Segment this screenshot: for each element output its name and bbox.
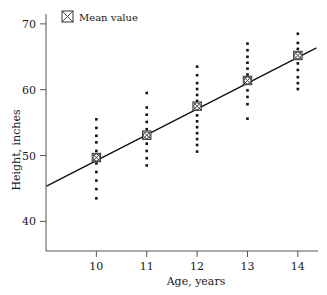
x-tick-label: 10 xyxy=(89,260,103,273)
data-point xyxy=(196,132,199,135)
chart-figure: 40506070 1011121314 Height, inches Age, … xyxy=(0,0,327,295)
x-tick-label: 12 xyxy=(190,260,204,273)
data-point xyxy=(297,42,300,45)
data-point xyxy=(145,164,148,167)
data-point xyxy=(246,73,249,76)
data-point xyxy=(95,134,98,137)
data-point xyxy=(297,48,300,51)
y-axis-title: Height, inches xyxy=(10,109,23,191)
x-axis-title: Age, years xyxy=(166,275,226,288)
data-point xyxy=(196,144,199,147)
x-tick-label: 14 xyxy=(291,260,305,273)
regression-line-segment xyxy=(47,48,316,186)
axes-group xyxy=(46,14,318,251)
data-point xyxy=(95,118,98,121)
data-point xyxy=(95,127,98,130)
data-point xyxy=(196,94,199,97)
data-point xyxy=(196,138,199,141)
data-point xyxy=(95,171,98,174)
data-point xyxy=(297,32,300,35)
data-point xyxy=(297,76,300,79)
data-point xyxy=(196,88,199,91)
x-axis-ticks: 1011121314 xyxy=(89,251,304,273)
data-point xyxy=(246,42,249,45)
data-point xyxy=(196,114,199,117)
data-point xyxy=(246,89,249,92)
data-point xyxy=(196,74,199,77)
y-tick-label: 50 xyxy=(22,150,36,163)
data-point xyxy=(297,62,300,65)
data-point xyxy=(246,96,249,99)
data-point xyxy=(246,49,249,52)
legend-label-mean-value: Mean value xyxy=(79,12,138,23)
data-point xyxy=(246,55,249,58)
data-point xyxy=(145,157,148,160)
data-point xyxy=(297,82,300,85)
data-point xyxy=(145,92,148,95)
data-point xyxy=(95,188,98,191)
mean-marker xyxy=(92,153,100,161)
data-point xyxy=(196,82,199,85)
data-point xyxy=(145,128,148,131)
x-tick-label: 13 xyxy=(240,260,254,273)
data-point xyxy=(196,65,199,68)
data-point xyxy=(95,162,98,165)
y-tick-label: 40 xyxy=(22,215,36,228)
data-point xyxy=(196,120,199,123)
data-point xyxy=(95,197,98,200)
mean-marker xyxy=(193,102,201,110)
y-axis-ticks: 40506070 xyxy=(22,18,46,229)
regression-line xyxy=(47,48,316,186)
data-point xyxy=(95,141,98,144)
data-point xyxy=(246,61,249,64)
data-points-group xyxy=(95,32,299,199)
mean-marker xyxy=(294,51,302,59)
data-point xyxy=(196,126,199,129)
data-point xyxy=(145,121,148,124)
data-point xyxy=(145,106,148,109)
legend: Mean value xyxy=(62,11,138,23)
data-point xyxy=(145,150,148,153)
y-tick-label: 60 xyxy=(22,84,36,97)
data-point xyxy=(246,103,249,106)
data-point xyxy=(196,150,199,153)
data-point xyxy=(95,150,98,153)
data-point xyxy=(297,69,300,72)
data-point xyxy=(95,179,98,182)
x-tick-label: 11 xyxy=(140,260,154,273)
mean-marker xyxy=(243,76,251,84)
legend-marker-icon xyxy=(62,11,73,22)
data-point xyxy=(297,88,300,91)
data-point xyxy=(246,117,249,120)
mean-marker xyxy=(143,131,151,139)
data-point xyxy=(145,142,148,145)
data-point xyxy=(145,113,148,116)
data-point xyxy=(246,67,249,70)
scatter-plot: 40506070 1011121314 Height, inches Age, … xyxy=(0,0,327,295)
y-tick-label: 70 xyxy=(22,18,36,31)
